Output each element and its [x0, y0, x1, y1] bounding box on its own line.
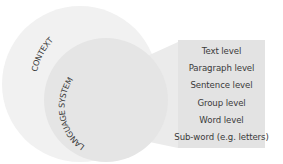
level-text: Text level — [202, 46, 242, 56]
level-sub-word: Sub-word (e.g. letters) — [174, 132, 268, 142]
level-paragraph: Paragraph level — [189, 63, 255, 73]
level-sentence: Sentence level — [190, 80, 252, 90]
levels-box: Text level Paragraph level Sentence leve… — [178, 40, 265, 148]
level-word: Word level — [199, 115, 243, 125]
level-group: Group level — [197, 98, 245, 108]
